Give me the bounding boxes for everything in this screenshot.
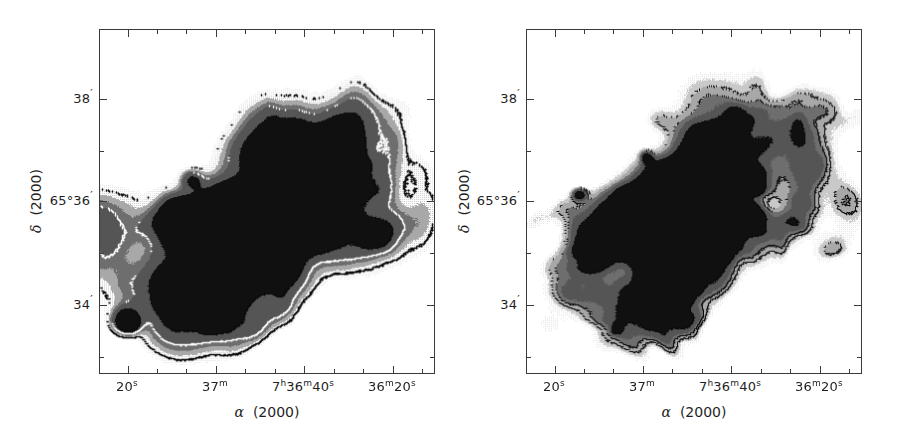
y-tick-label-6536: 65°36′: [37, 193, 93, 208]
x-tick-label-37m: 37m: [629, 379, 655, 394]
y-tick-left-1: [527, 151, 531, 152]
x-tick-bottom-8: [363, 369, 364, 373]
y-tick-left-0: [100, 99, 107, 100]
y-tick-left-3: [527, 253, 531, 254]
x-tick-label-20s: 20s: [116, 379, 138, 394]
x-tick-top-2: [186, 30, 187, 34]
y-tick-label-38: 38′: [464, 91, 520, 106]
y-tick-right-5: [430, 357, 434, 358]
x-tick-top-6: [731, 30, 732, 37]
x-tick-bottom-7: [761, 369, 762, 373]
x-tick-label-20s: 20s: [543, 379, 565, 394]
x-tick-bottom-6: [304, 366, 305, 373]
x-tick-top-7: [334, 30, 335, 34]
y-tick-left-4: [100, 305, 107, 306]
right-x-axis-title: α (2000): [662, 404, 727, 420]
x-tick-top-4: [672, 30, 673, 34]
x-tick-bottom-8: [790, 369, 791, 373]
x-tick-top-8: [790, 30, 791, 34]
right-map-panel: 20s37m7h36m40s36m20s 38′65°36′34′ α (200…: [456, 0, 911, 440]
x-tick-bottom-0: [128, 366, 129, 373]
x-tick-top-5: [702, 30, 703, 34]
x-tick-bottom-9: [820, 366, 821, 373]
y-tick-right-3: [857, 253, 861, 254]
x-tick-bottom-0: [555, 366, 556, 373]
y-tick-left-3: [100, 253, 104, 254]
right-map-image: [527, 30, 861, 373]
y-tick-right-1: [857, 151, 861, 152]
left-plot-frame: [99, 29, 435, 374]
x-tick-top-2: [613, 30, 614, 34]
x-tick-bottom-10: [849, 369, 850, 373]
y-tick-right-2: [427, 201, 434, 202]
x-tick-top-6: [304, 30, 305, 37]
left-x-axis-title: α (2000): [235, 404, 300, 420]
x-tick-bottom-3: [643, 366, 644, 373]
left-map-image: [100, 30, 434, 373]
y-tick-left-2: [527, 201, 534, 202]
y-tick-label-6536: 65°36′: [464, 193, 520, 208]
x-tick-top-10: [422, 30, 423, 34]
y-tick-right-3: [430, 253, 434, 254]
y-tick-left-5: [527, 357, 531, 358]
figure-root: 20s37m7h36m40s36m20s 38′65°36′34′ α (200…: [0, 0, 911, 440]
x-tick-top-3: [216, 30, 217, 37]
x-tick-top-9: [820, 30, 821, 37]
left-map-panel: 20s37m7h36m40s36m20s 38′65°36′34′ α (200…: [0, 0, 455, 440]
x-tick-bottom-10: [422, 369, 423, 373]
x-tick-top-10: [849, 30, 850, 34]
x-tick-bottom-6: [731, 366, 732, 373]
x-tick-label-7h36m40s: 7h36m40s: [699, 379, 761, 394]
x-tick-bottom-2: [613, 369, 614, 373]
x-tick-bottom-5: [275, 369, 276, 373]
x-tick-label-7h36m40s: 7h36m40s: [272, 379, 334, 394]
y-tick-right-5: [857, 357, 861, 358]
y-tick-right-4: [427, 305, 434, 306]
x-tick-bottom-2: [186, 369, 187, 373]
y-tick-label-34: 34′: [37, 297, 93, 312]
y-tick-label-38: 38′: [37, 91, 93, 106]
x-tick-bottom-4: [245, 369, 246, 373]
y-tick-label-34: 34′: [464, 297, 520, 312]
y-tick-left-1: [100, 151, 104, 152]
x-tick-top-7: [761, 30, 762, 34]
x-tick-bottom-7: [334, 369, 335, 373]
left-y-axis-title: δ (2000): [28, 169, 44, 233]
y-tick-right-2: [854, 201, 861, 202]
x-tick-top-9: [393, 30, 394, 37]
right-plot-frame: [526, 29, 862, 374]
y-tick-right-0: [427, 99, 434, 100]
x-tick-top-3: [643, 30, 644, 37]
x-tick-top-1: [584, 30, 585, 34]
x-tick-top-4: [245, 30, 246, 34]
y-tick-right-0: [854, 99, 861, 100]
y-tick-left-5: [100, 357, 104, 358]
x-tick-bottom-9: [393, 366, 394, 373]
x-tick-top-8: [363, 30, 364, 34]
x-tick-top-0: [128, 30, 129, 37]
x-tick-label-36m20s: 36m20s: [795, 379, 843, 394]
x-tick-bottom-3: [216, 366, 217, 373]
x-tick-top-0: [555, 30, 556, 37]
y-tick-right-1: [430, 151, 434, 152]
x-tick-bottom-5: [702, 369, 703, 373]
x-tick-top-5: [275, 30, 276, 34]
x-tick-top-1: [157, 30, 158, 34]
y-tick-left-2: [100, 201, 107, 202]
right-y-axis-title: δ (2000): [456, 169, 472, 233]
x-tick-bottom-4: [672, 369, 673, 373]
x-tick-bottom-1: [157, 369, 158, 373]
x-tick-label-36m20s: 36m20s: [368, 379, 416, 394]
x-tick-bottom-1: [584, 369, 585, 373]
y-tick-left-0: [527, 99, 534, 100]
y-tick-right-4: [854, 305, 861, 306]
y-tick-left-4: [527, 305, 534, 306]
x-tick-label-37m: 37m: [202, 379, 228, 394]
